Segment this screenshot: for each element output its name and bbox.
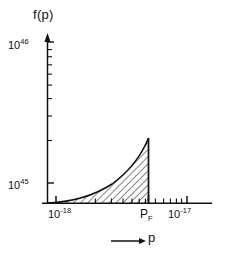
y-axis-major-ticks [48,42,55,183]
y-tick-bottom-mantissa: 10 [8,179,20,191]
fermi-momentum-label: PF [140,208,153,223]
curve-fill-hatched [48,138,149,203]
y-tick-label-1e46: 1046 [8,38,29,51]
fermi-momentum-symbol: P [140,207,148,221]
y-axis-label: f(p) [33,8,54,21]
y-axis-arrowhead [44,33,50,42]
x-tick-label-1e-18: 10-18 [48,207,71,220]
y-tick-top-mantissa: 10 [8,39,20,51]
x-axis-label: p [148,231,155,244]
x-tick-right-mantissa: 10 [168,208,180,220]
x-tick-left-mantissa: 10 [48,208,60,220]
y-tick-top-exponent: 46 [20,37,28,46]
figure-canvas: f(p) 1046 1045 10-18 10-17 PF p [0,0,225,253]
x-tick-left-exponent: -18 [60,206,71,215]
plot-graphics [0,0,225,253]
fermi-momentum-subscript: F [148,214,153,223]
x-tick-right-exponent: -17 [180,206,191,215]
x-tick-label-1e-17: 10-17 [168,207,191,220]
y-tick-label-1e45: 1045 [8,178,29,191]
x-axis-direction-arrow [111,238,146,244]
y-tick-bottom-exponent: 45 [20,177,28,186]
